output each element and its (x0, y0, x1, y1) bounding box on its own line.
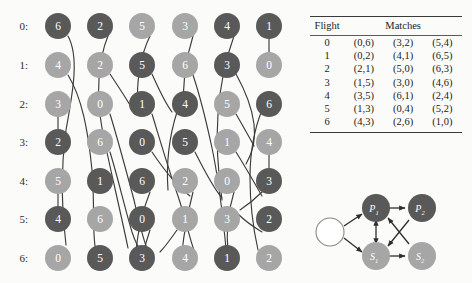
schedule-diagram: 0: 1: 2: 3: 4: 5: 6: 6 4 3 2 5 4 0 2 2 0… (0, 0, 300, 283)
match-pair: (6,5) (423, 49, 462, 62)
table-row: 1 (0,2) (4,1) (6,5) (310, 49, 462, 62)
flight-number: 0 (310, 36, 344, 49)
schedule-node[interactable]: 3 (129, 245, 155, 271)
match-pair: (4,3) (344, 115, 383, 128)
producer-server-graph: P1 P2 S1 S2 (306, 186, 466, 278)
table-row: 5 (1,3) (0,4) (5,2) (310, 102, 462, 115)
schedule-node[interactable]: 3 (214, 206, 240, 232)
schedule-node[interactable]: 3 (214, 52, 240, 78)
schedule-node[interactable]: 0 (129, 129, 155, 155)
match-pair: (3,2) (383, 36, 422, 49)
match-pair: (6,1) (383, 89, 422, 102)
flight-number: 1 (310, 49, 344, 62)
column-header-matches: Matches (344, 17, 462, 35)
match-pair: (3,0) (383, 76, 422, 89)
schedule-row-label: 3: (2, 136, 28, 148)
match-pair: (5,4) (423, 36, 462, 49)
schedule-node[interactable]: 1 (256, 13, 282, 39)
schedule-node[interactable]: 3 (172, 13, 198, 39)
schedule-node[interactable]: 4 (45, 206, 71, 232)
match-pair: (0,2) (344, 49, 383, 62)
schedule-node[interactable]: 0 (214, 168, 240, 194)
table-rule-bottom (310, 128, 462, 133)
schedule-node[interactable]: 4 (45, 52, 71, 78)
schedule-node[interactable]: 0 (129, 206, 155, 232)
match-pair: (2,4) (423, 89, 462, 102)
edge-start-p1 (344, 214, 362, 226)
schedule-node[interactable]: 0 (45, 245, 71, 271)
schedule-node[interactable]: 4 (214, 13, 240, 39)
mini-node-start[interactable] (316, 218, 344, 246)
schedule-node[interactable]: 6 (172, 52, 198, 78)
schedule-row-label: 4: (2, 175, 28, 187)
flight-number: 2 (310, 62, 344, 75)
edge-p2-s1 (388, 220, 409, 246)
schedule-node[interactable]: 1 (129, 91, 155, 117)
match-pair: (2,1) (344, 62, 383, 75)
schedule-node[interactable]: 4 (256, 129, 282, 155)
schedule-node[interactable]: 2 (87, 52, 113, 78)
schedule-node[interactable]: 3 (256, 168, 282, 194)
schedule-row-label: 6: (2, 252, 28, 264)
schedule-node[interactable]: 0 (87, 91, 113, 117)
table-row: 2 (2,1) (5,0) (6,3) (310, 62, 462, 75)
edge-s2-p1 (388, 218, 409, 244)
schedule-node[interactable]: 1 (214, 129, 240, 155)
schedule-node[interactable]: 6 (87, 129, 113, 155)
schedule-row-label: 2: (2, 98, 28, 110)
table-header-row: Flight Matches (310, 17, 462, 35)
match-pair: (1,0) (423, 115, 462, 128)
schedule-node[interactable]: 1 (214, 245, 240, 271)
schedule-node[interactable]: 6 (129, 168, 155, 194)
schedule-node[interactable]: 3 (45, 91, 71, 117)
schedule-node[interactable]: 5 (214, 91, 240, 117)
column-header-flight: Flight (310, 17, 344, 35)
matches-table: Flight Matches 0 (0,6) (3,2) (5,4) 1 (0,… (310, 16, 462, 133)
match-pair: (3,5) (344, 89, 383, 102)
schedule-node[interactable]: 5 (87, 245, 113, 271)
schedule-node[interactable]: 5 (45, 168, 71, 194)
match-pair: (1,3) (344, 102, 383, 115)
table-row: 0 (0,6) (3,2) (5,4) (310, 36, 462, 49)
schedule-row-label: 5: (2, 213, 28, 225)
schedule-node[interactable]: 5 (129, 52, 155, 78)
match-pair: (0,6) (344, 36, 383, 49)
match-pair: (0,4) (383, 102, 422, 115)
table-row: 6 (4,3) (2,6) (1,0) (310, 115, 462, 128)
schedule-node[interactable]: 4 (172, 91, 198, 117)
flight-number: 5 (310, 102, 344, 115)
table-row: 4 (3,5) (6,1) (2,4) (310, 89, 462, 102)
match-pair: (4,6) (423, 76, 462, 89)
match-pair: (4,1) (383, 49, 422, 62)
schedule-node[interactable]: 4 (172, 245, 198, 271)
schedule-node[interactable]: 1 (87, 168, 113, 194)
flight-number: 4 (310, 89, 344, 102)
schedule-node[interactable]: 2 (256, 206, 282, 232)
schedule-node[interactable]: 1 (172, 206, 198, 232)
schedule-row-label: 1: (2, 59, 28, 71)
schedule-node[interactable]: 2 (87, 13, 113, 39)
schedule-node[interactable]: 6 (45, 13, 71, 39)
match-pair: (5,0) (383, 62, 422, 75)
edge-start-s1 (344, 238, 362, 252)
schedule-node[interactable]: 5 (172, 129, 198, 155)
figure-canvas: 0: 1: 2: 3: 4: 5: 6: 6 4 3 2 5 4 0 2 2 0… (0, 0, 472, 283)
producer-server-graph-svg: P1 P2 S1 S2 (306, 186, 466, 278)
match-pair: (1,5) (344, 76, 383, 89)
schedule-node[interactable]: 6 (87, 206, 113, 232)
flight-number: 6 (310, 115, 344, 128)
match-pair: (6,3) (423, 62, 462, 75)
match-pair: (2,6) (383, 115, 422, 128)
schedule-node[interactable]: 2 (45, 129, 71, 155)
match-pair: (5,2) (423, 102, 462, 115)
schedule-node[interactable]: 2 (256, 245, 282, 271)
schedule-node[interactable]: 2 (172, 168, 198, 194)
schedule-row-label: 0: (2, 20, 28, 32)
schedule-node[interactable]: 6 (256, 91, 282, 117)
flight-number: 3 (310, 76, 344, 89)
schedule-node[interactable]: 5 (129, 13, 155, 39)
table-row: 3 (1,5) (3,0) (4,6) (310, 76, 462, 89)
schedule-node[interactable]: 0 (256, 52, 282, 78)
